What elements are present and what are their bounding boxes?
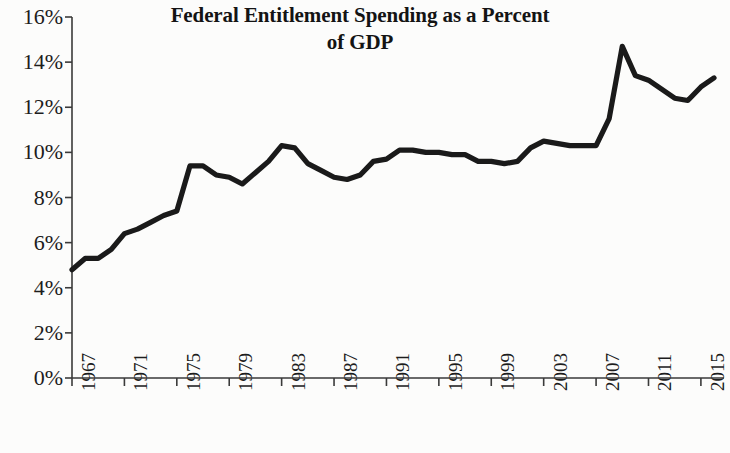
chart-container: Federal Entitlement Spending as a Percen… xyxy=(0,0,730,453)
data-series-group xyxy=(72,46,714,269)
axes-group xyxy=(65,17,724,386)
data-line-series-0 xyxy=(72,46,714,269)
plot-area xyxy=(0,0,730,453)
